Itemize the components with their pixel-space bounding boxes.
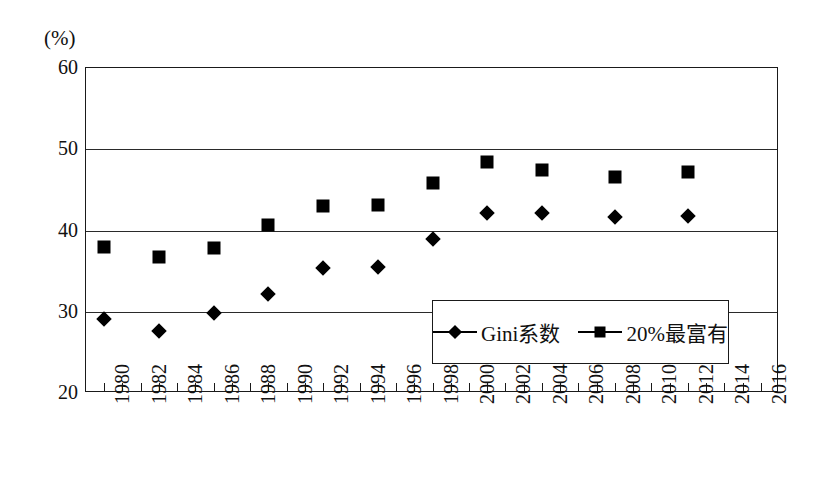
x-tick-2011	[670, 383, 671, 391]
x-tick-1981	[122, 383, 123, 391]
data-point-s1-1995	[371, 199, 384, 212]
x-tick-1995	[378, 383, 379, 391]
x-tick-2001	[487, 383, 488, 391]
x-tick-2014	[724, 383, 725, 391]
data-point-s1-2004	[535, 164, 548, 177]
x-tick-1980	[104, 383, 105, 391]
data-point-s0-2012	[680, 208, 696, 224]
x-tick-2013	[706, 383, 707, 391]
data-point-s1-1983	[152, 251, 165, 264]
data-point-s1-2008	[608, 170, 621, 183]
y-tick-label-30: 30	[38, 301, 78, 321]
x-tick-2004	[542, 383, 543, 391]
x-tick-1997	[414, 383, 415, 391]
x-tick-1982	[141, 383, 142, 391]
x-tick-1992	[323, 383, 324, 391]
data-point-s0-1986	[206, 305, 222, 321]
legend-item-gini: Gini系数	[433, 317, 560, 347]
data-point-s1-1998	[426, 177, 439, 190]
x-tick-2005	[560, 383, 561, 391]
x-tick-1996	[396, 383, 397, 391]
gridline-50	[86, 149, 777, 150]
gini-income-share-chart: (%) 6050403020 1980198219841986198819901…	[0, 0, 821, 482]
x-tick-1999	[451, 383, 452, 391]
x-tick-2003	[524, 383, 525, 391]
x-tick-1994	[360, 383, 361, 391]
x-tick-2016	[761, 383, 762, 391]
x-tick-2008	[615, 383, 616, 391]
x-tick-2000	[469, 383, 470, 391]
y-tick-label-20: 20	[38, 382, 78, 402]
diamond-marker-icon	[433, 324, 477, 340]
data-point-s1-2001	[481, 156, 494, 169]
data-point-s0-2004	[534, 206, 550, 222]
x-tick-1998	[433, 383, 434, 391]
x-tick-2012	[688, 383, 689, 391]
x-tick-2009	[633, 383, 634, 391]
chart-legend: Gini系数 20%最富有	[432, 300, 729, 364]
data-point-s0-1980	[96, 311, 112, 327]
x-tick-1993	[341, 383, 342, 391]
square-marker-icon	[578, 324, 622, 340]
data-point-s1-1992	[317, 200, 330, 213]
data-point-s0-2008	[607, 209, 623, 225]
x-tick-1984	[177, 383, 178, 391]
x-tick-2010	[651, 383, 652, 391]
legend-label-gini: Gini系数	[477, 317, 560, 347]
data-point-s0-1989	[261, 286, 277, 302]
x-tick-1987	[232, 383, 233, 391]
x-tick-2007	[597, 383, 598, 391]
data-point-s0-2001	[479, 205, 495, 221]
data-point-s0-1998	[425, 232, 441, 248]
data-point-s0-1983	[151, 323, 167, 339]
data-point-s0-1995	[370, 259, 386, 275]
data-point-s1-1989	[262, 218, 275, 231]
data-point-s1-2012	[681, 166, 694, 179]
x-tick-1991	[305, 383, 306, 391]
x-tick-1990	[287, 383, 288, 391]
x-tick-1986	[214, 383, 215, 391]
data-point-s1-1986	[207, 241, 220, 254]
x-tick-1989	[268, 383, 269, 391]
data-point-s1-1980	[98, 240, 111, 253]
x-tick-1983	[159, 383, 160, 391]
x-tick-1985	[195, 383, 196, 391]
y-tick-label-40: 40	[38, 220, 78, 240]
data-point-s0-1992	[315, 260, 331, 276]
y-axis-tick-labels: 6050403020	[34, 0, 78, 482]
legend-label-top20: 20%最富有	[622, 317, 728, 347]
legend-item-top20: 20%最富有	[578, 317, 728, 347]
x-tick-2002	[505, 383, 506, 391]
x-tick-2006	[578, 383, 579, 391]
y-tick-label-60: 60	[38, 57, 78, 77]
x-tick-2015	[743, 383, 744, 391]
y-tick-label-50: 50	[38, 138, 78, 158]
x-tick-1988	[250, 383, 251, 391]
